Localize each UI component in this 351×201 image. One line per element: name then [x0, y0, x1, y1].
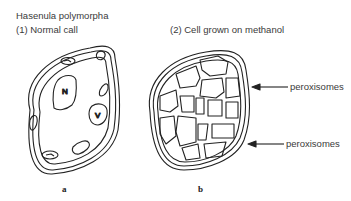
cell-diagram: N V	[0, 0, 351, 201]
normal-cell: N V	[29, 46, 120, 174]
methanol-cell	[149, 51, 249, 170]
vacuole-label: V	[95, 111, 101, 120]
peroxisome-arrows	[248, 84, 288, 147]
peroxisomes-annotation-upper: peroxisomes	[290, 81, 344, 92]
peroxisomes-annotation-lower: peroxisomes	[286, 138, 340, 149]
nucleus-label: N	[62, 87, 68, 96]
panel-b-label: b	[198, 184, 203, 194]
panel-a-label: a	[62, 184, 67, 194]
